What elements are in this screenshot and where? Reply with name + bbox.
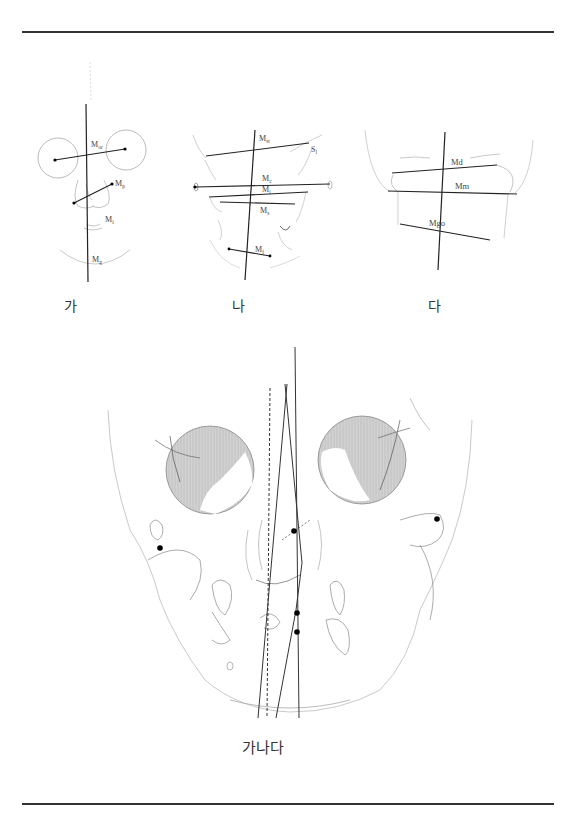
label-mgo: Mgo — [429, 218, 445, 228]
label-md: Md — [451, 157, 464, 167]
landmark-right-condyle — [434, 516, 440, 522]
figure-canvas: Mor Mp Mi Mg Mst Sl Mc Mi Ms — [0, 0, 568, 823]
label-mc: Mc — [262, 174, 272, 184]
label-mi: Mi — [105, 215, 114, 225]
label-mst: Mst — [259, 134, 270, 144]
left-orbit — [155, 426, 254, 514]
midline-na — [258, 384, 287, 718]
midline — [86, 104, 88, 282]
caption-combined: 가나다 — [242, 736, 284, 757]
left-orbit-sketch — [38, 138, 78, 178]
landmark-nasal — [291, 528, 297, 534]
label-mm: Mm — [455, 181, 470, 191]
label-mi-2: Mi — [262, 185, 271, 195]
label-ms: Ms — [260, 206, 269, 216]
landmark-lower-incisor — [294, 629, 300, 635]
caption-ga: 가 — [64, 295, 77, 315]
label-mf: Mf — [255, 245, 264, 255]
panel-na: Mst Sl Mc Mi Ms Mf — [193, 130, 332, 280]
label-mp: Mp — [115, 179, 125, 189]
panel-ga: Mor Mp Mi Mg — [38, 62, 146, 282]
caption-na: 나 — [232, 295, 245, 315]
landmark-upper-incisor — [294, 610, 300, 616]
label-mor: Mor — [91, 140, 103, 150]
label-sl: Sl — [311, 145, 317, 155]
midline-da — [267, 388, 270, 718]
caption-da: 다 — [428, 295, 441, 315]
skull-diagram — [108, 347, 472, 718]
label-mg: Mg — [92, 255, 102, 265]
panel-da: Md Mm Mgo — [365, 130, 533, 270]
right-orbit — [318, 398, 430, 504]
landmark-left-condyle — [157, 545, 163, 551]
